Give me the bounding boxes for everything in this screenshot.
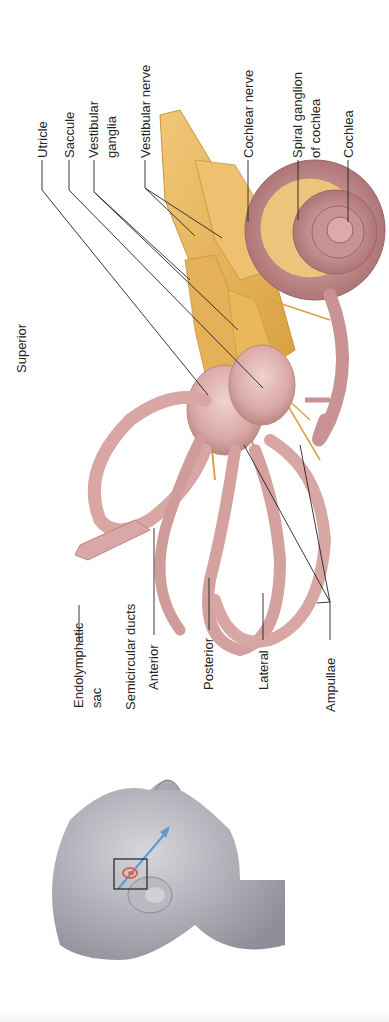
anatomy-illustration (0, 0, 389, 1022)
label-utricle: Utricle (35, 121, 50, 158)
label-spiral-ganglion-line2: of cochlea (308, 99, 324, 158)
bottom-band (0, 1010, 389, 1022)
label-endolymphatic-sac-line2: sac (89, 688, 105, 708)
inner-ear-diagram: Utricle Saccule Vestibular ganglia Vesti… (0, 0, 389, 1022)
label-superior: Superior (14, 324, 29, 373)
label-anterior: Anterior (146, 644, 161, 690)
label-vestibular-ganglia-line1: Vestibular (86, 101, 102, 158)
label-semicircular-ducts: Semicircular ducts (123, 604, 138, 710)
label-lateral: Lateral (256, 650, 271, 690)
label-spiral-ganglion-line1: Spiral ganglion (290, 72, 306, 158)
label-cochlea: Cochlea (341, 110, 356, 158)
label-endolymphatic-sac-line1: Endolymphatic (71, 623, 87, 708)
label-vestibular-ganglia-line2: ganglia (104, 116, 120, 158)
label-cochlear-nerve: Cochlear nerve (241, 70, 256, 158)
head-locator-illustration (52, 780, 285, 960)
label-vestibular-nerve: Vestibular nerve (138, 65, 153, 158)
label-saccule: Saccule (62, 112, 77, 158)
label-posterior: Posterior (201, 638, 216, 690)
label-ampullae: Ampullae (323, 658, 338, 712)
